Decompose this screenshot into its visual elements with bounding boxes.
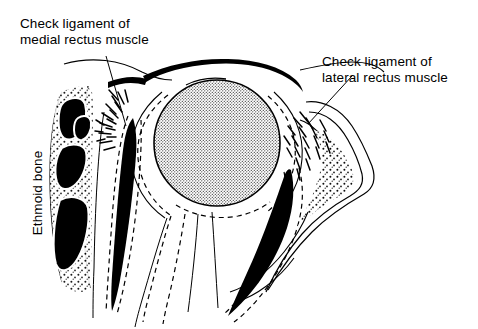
figure-canvas: Check ligament of medial rectus muscle C… xyxy=(0,0,478,329)
orbit-axial-section-illustration xyxy=(0,0,478,329)
globe xyxy=(154,78,280,206)
label-lateral-check-ligament: Check ligament of lateral rectus muscle xyxy=(322,54,448,86)
label-ethmoid-bone: Ethmoid bone xyxy=(30,133,46,253)
label-medial-check-ligament: Check ligament of medial rectus muscle xyxy=(20,16,149,48)
